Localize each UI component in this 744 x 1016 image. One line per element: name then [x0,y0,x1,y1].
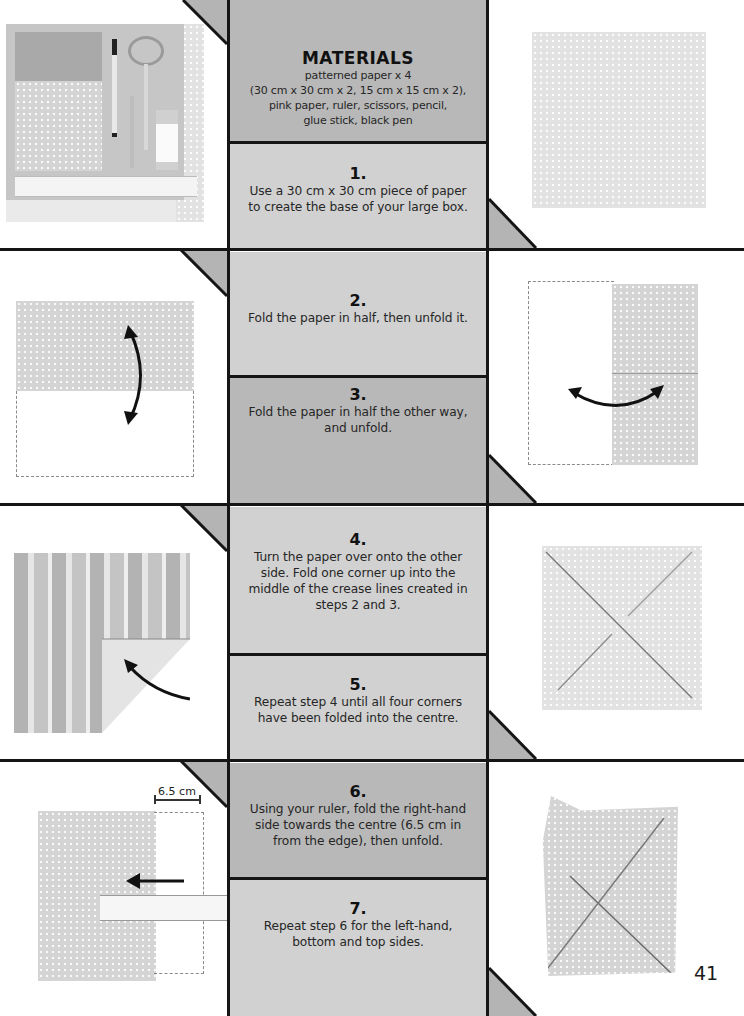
step-text: to create the base of your large box. [230,199,486,215]
materials-line: pink paper, ruler, scissors, pencil, [230,98,486,113]
fold-arrow-icon [528,281,698,467]
step-number: 5. [230,676,486,694]
step-number: 6. [230,783,486,801]
pink-paper [15,32,102,81]
step-text: Repeat step 6 for the left-hand, [230,918,486,934]
step-7-panel: 7. Repeat step 6 for the left-hand, bott… [230,880,486,1016]
step1-photo [532,32,706,208]
step-text: and unfold. [230,420,486,436]
step-text: Repeat step 4 until all four corners [230,694,486,710]
pen-icon [112,39,117,137]
step-text: from the edge), then unfold. [230,833,486,849]
step-text: side. Fold one corner up into the [230,565,486,581]
corner-triangle [489,199,536,248]
step5-photo [542,546,702,710]
materials-line: (30 cm x 30 cm x 2, 15 cm x 15 cm x 2), [230,83,486,98]
scissors-icon [128,36,164,66]
materials-line: glue stick, black pen [230,113,486,128]
step-number: 2. [230,292,486,310]
step-text: Fold the paper in half the other way, [230,404,486,420]
corner-triangle [181,250,227,296]
step6-photo: 6.5 cm [38,785,228,975]
crease-lines [540,796,678,976]
step-text: side towards the centre (6.5 cm in [230,817,486,833]
step-4-panel: 4. Turn the paper over onto the other si… [230,507,486,653]
step-number: 4. [230,531,486,549]
step-text: steps 2 and 3. [230,597,486,613]
step-6-panel: 6. Using your ruler, fold the right-hand… [230,763,486,877]
ruler-icon [15,176,197,197]
instruction-page: 6.5 cm 41 [0,0,744,1016]
crease-lines [542,546,702,710]
step-3-panel: 3. Fold the paper in half the other way,… [230,378,486,504]
step3-photo [528,281,698,467]
step7-photo [540,796,678,976]
materials-title: MATERIALS [230,48,486,68]
step-text: Fold the paper in half, then unfold it. [230,310,486,326]
left-arrow-icon [38,785,228,975]
step-text: have been folded into the centre. [230,710,486,726]
corner-triangle [489,711,536,759]
step-5-panel: 5. Repeat step 4 until all four corners … [230,656,486,760]
step-2-panel: 2. Fold the paper in half, then unfold i… [230,252,486,375]
step4-photo [14,553,190,733]
step-text: Turn the paper over onto the other [230,549,486,565]
step-number: 7. [230,900,486,918]
materials-photo [6,24,204,222]
fold-arrow-icon [16,301,194,477]
pencil-icon [130,96,134,168]
materials-line: patterned paper x 4 [230,68,486,83]
corner-triangle [181,505,227,551]
corner-triangle [489,968,536,1016]
row-divider [0,503,744,506]
step-text: Using your ruler, fold the right-hand [230,801,486,817]
materials-panel: MATERIALS patterned paper x 4 (30 cm x 3… [230,0,486,141]
step-text: Use a 30 cm x 30 cm piece of paper [230,183,486,199]
instructions-column: MATERIALS patterned paper x 4 (30 cm x 3… [227,0,489,1016]
patterned-paper [15,81,102,171]
step-number: 1. [230,165,486,183]
step-1-panel: 1. Use a 30 cm x 30 cm piece of paper to… [230,144,486,249]
step-text: bottom and top sides. [230,934,486,950]
step2-photo [16,301,194,477]
step-text: middle of the crease lines created in [230,581,486,597]
step-number: 3. [230,386,486,404]
row-divider [0,759,744,762]
row-divider [0,248,744,251]
glue-stick-icon [156,110,178,170]
page-number: 41 [694,962,718,984]
